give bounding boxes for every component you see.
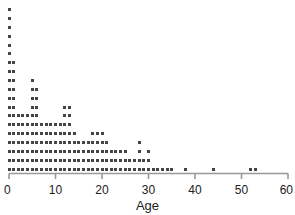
data-point [82, 141, 85, 144]
data-point [91, 168, 94, 171]
data-point [8, 52, 11, 55]
data-point [59, 159, 62, 162]
data-point [8, 79, 11, 82]
data-point [31, 97, 34, 100]
data-point [45, 168, 48, 171]
x-axis-tick-label: 10 [49, 183, 62, 197]
data-point [8, 61, 11, 64]
data-point [63, 114, 66, 117]
x-axis-line-and-ticks [9, 174, 288, 180]
data-point [73, 141, 76, 144]
data-point [142, 168, 145, 171]
data-point [8, 70, 11, 73]
data-point [8, 114, 11, 117]
data-point [77, 150, 80, 153]
data-point [26, 114, 29, 117]
data-point [133, 159, 136, 162]
data-point [26, 123, 29, 126]
data-point [54, 159, 57, 162]
data-point [96, 150, 99, 153]
data-point [87, 150, 90, 153]
data-point [49, 132, 52, 135]
data-point [12, 141, 15, 144]
data-point [12, 168, 15, 171]
data-point [35, 168, 38, 171]
data-point [8, 150, 11, 153]
plot-area [0, 0, 295, 178]
data-point [21, 159, 24, 162]
data-point [91, 150, 94, 153]
data-point [21, 132, 24, 135]
data-point [45, 159, 48, 162]
data-point [35, 123, 38, 126]
data-point [91, 132, 94, 135]
x-axis-tick-label: 60 [280, 183, 293, 197]
data-point [119, 159, 122, 162]
data-point [119, 168, 122, 171]
data-point [49, 159, 52, 162]
x-axis-tick-label: 50 [235, 183, 248, 197]
data-point [54, 141, 57, 144]
data-point [40, 141, 43, 144]
data-point [105, 141, 108, 144]
data-point [249, 168, 252, 171]
data-point [77, 159, 80, 162]
data-point [54, 150, 57, 153]
data-point [63, 159, 66, 162]
data-point [31, 159, 34, 162]
data-point [254, 168, 257, 171]
data-point [138, 159, 141, 162]
data-point [101, 168, 104, 171]
data-point [101, 132, 104, 135]
data-point [166, 168, 169, 171]
data-point [21, 150, 24, 153]
data-point [45, 141, 48, 144]
data-point [35, 159, 38, 162]
data-point [73, 159, 76, 162]
data-point [110, 150, 113, 153]
data-point [114, 150, 117, 153]
x-axis-tick-label: 30 [142, 183, 155, 197]
data-point [82, 168, 85, 171]
data-point [12, 132, 15, 135]
data-point [96, 132, 99, 135]
data-point [31, 79, 34, 82]
dot-plot-figure: 0102030405060 Age [0, 0, 295, 215]
data-point [96, 141, 99, 144]
data-point [45, 123, 48, 126]
data-point [45, 132, 48, 135]
data-point [31, 168, 34, 171]
data-point [59, 150, 62, 153]
data-point [212, 168, 215, 171]
data-point [114, 159, 117, 162]
data-point [40, 123, 43, 126]
data-point [31, 123, 34, 126]
data-point [63, 141, 66, 144]
data-point [12, 114, 15, 117]
data-point [54, 132, 57, 135]
data-point [73, 150, 76, 153]
data-point [110, 168, 113, 171]
data-point [8, 8, 11, 11]
data-point [26, 141, 29, 144]
data-point [68, 123, 71, 126]
data-point [63, 123, 66, 126]
data-point [152, 168, 155, 171]
data-point [40, 150, 43, 153]
data-point [133, 168, 136, 171]
data-point [101, 141, 104, 144]
data-point [8, 159, 11, 162]
data-point [8, 97, 11, 100]
data-point [101, 150, 104, 153]
data-point [31, 132, 34, 135]
x-axis-tick-label: 20 [95, 183, 108, 197]
data-point [26, 132, 29, 135]
data-point [105, 150, 108, 153]
data-point [101, 159, 104, 162]
data-point [8, 17, 11, 20]
data-point [49, 123, 52, 126]
data-point [31, 114, 34, 117]
data-point [12, 61, 15, 64]
data-point [31, 141, 34, 144]
data-point [21, 168, 24, 171]
